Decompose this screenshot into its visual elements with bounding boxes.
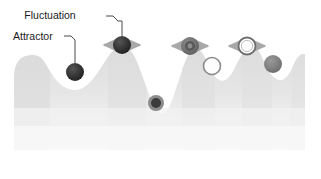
deep-valley-particle-core (151, 98, 161, 108)
gray-peak-particle-inner (188, 44, 193, 49)
landscape-ground-fade-2 (14, 126, 305, 150)
attractor-leader-line (64, 36, 75, 63)
fluctuation-leader-line (106, 16, 122, 36)
open-valley-particle (204, 58, 221, 75)
fluctuation-particle (113, 36, 131, 54)
attractor-label: Attractor (13, 30, 53, 42)
gray-valley-particle (264, 55, 282, 73)
fluctuation-label: Fluctuation (24, 9, 76, 21)
attractor-particle (66, 63, 84, 81)
energy-landscape-figure: Fluctuation Attractor (0, 0, 321, 179)
figure-canvas: Fluctuation Attractor (0, 0, 321, 179)
